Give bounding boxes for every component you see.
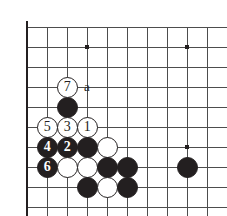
stone-black xyxy=(97,157,118,178)
stone-move-number: 2 xyxy=(64,140,71,154)
star-point xyxy=(85,45,89,49)
stone-move-number: 1 xyxy=(84,120,91,134)
stone-white xyxy=(57,157,78,178)
stone-move-number: 7 xyxy=(64,80,71,94)
star-point xyxy=(185,145,189,149)
stone-move-number: 5 xyxy=(44,120,51,134)
stone-black-move-4: 4 xyxy=(37,137,58,158)
stone-white xyxy=(97,137,118,158)
go-board-diagram: 5314267 a xyxy=(0,0,227,216)
stone-white-move-5: 5 xyxy=(37,117,58,138)
stone-black xyxy=(57,97,78,118)
stone-black xyxy=(77,137,98,158)
stone-white-move-7: 7 xyxy=(57,77,78,98)
stone-black-move-2: 2 xyxy=(57,137,78,158)
stone-black xyxy=(77,177,98,198)
stone-white xyxy=(97,177,118,198)
stone-white-move-3: 3 xyxy=(57,117,78,138)
stone-move-number: 4 xyxy=(44,140,51,154)
board-point-label-a: a xyxy=(77,77,98,98)
stone-black-move-6: 6 xyxy=(37,157,58,178)
stone-black xyxy=(117,177,138,198)
star-point xyxy=(185,45,189,49)
stone-move-number: 3 xyxy=(64,120,71,134)
stone-white-move-1: 1 xyxy=(77,117,98,138)
stone-black xyxy=(177,157,198,178)
stone-black xyxy=(117,157,138,178)
stone-white xyxy=(77,157,98,178)
stone-move-number: 6 xyxy=(44,160,51,174)
